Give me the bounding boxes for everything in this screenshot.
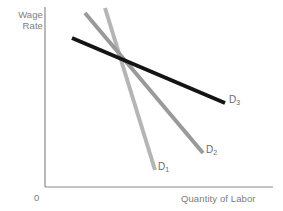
chart-plot-area (0, 0, 283, 211)
curve-label-d1-subscript: 1 (165, 166, 169, 173)
x-axis-title: Quantity of Labor (181, 193, 256, 204)
curve-label-d2-subscript: 2 (213, 149, 217, 156)
demand-curve-d3 (72, 38, 225, 103)
curve-label-d3-subscript: 3 (236, 99, 240, 106)
curve-label-d1: D1 (158, 161, 169, 172)
origin-label: 0 (34, 192, 39, 203)
curve-label-d2: D2 (206, 144, 217, 155)
y-axis-title-line2: Rate (23, 20, 43, 31)
curve-label-d3: D3 (229, 94, 240, 105)
labor-demand-elasticity-chart: Wage Rate Quantity of Labor 0 D1 D2 D3 (0, 0, 283, 211)
y-axis-title: Wage Rate (0, 9, 43, 31)
y-axis-title-line1: Wage (18, 9, 43, 20)
